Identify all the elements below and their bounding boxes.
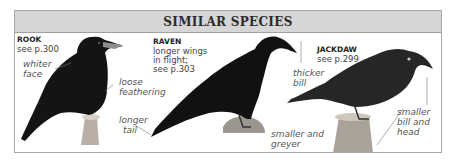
raven-annotation-bill-2: bill [293,78,306,88]
jackdaw-annotation-greyer-1: smaller and [271,129,324,139]
jackdaw-annotation-head-2: bill and [397,117,430,127]
jackdaw-annotation-head-3: head [397,127,419,137]
raven-annotation-tail-2: tail [123,125,137,135]
rook-reference: see p.300 [17,44,59,54]
jackdaw-reference: see p.299 [317,54,359,64]
panel-header: SIMILAR SPECIES [15,11,441,33]
rook-annotation-face-2: face [23,69,42,79]
rook-annotation-feathering-2: feathering [119,87,166,97]
bird-illustrations [15,33,441,153]
raven-annotation-bill-1: thicker [293,68,324,78]
rook-annotation-face-1: whiter [23,59,51,69]
rook-annotation-feathering-1: loose [119,77,143,87]
raven-reference: see p.303 [153,64,195,74]
panel-title: SIMILAR SPECIES [163,15,292,29]
jackdaw-annotation-head-1: smaller [397,107,430,117]
similar-species-panel: SIMILAR SPECIES [14,10,442,153]
jackdaw-annotation-greyer-2: greyer [271,139,301,149]
raven-annotation-tail-1: longer [119,115,148,125]
